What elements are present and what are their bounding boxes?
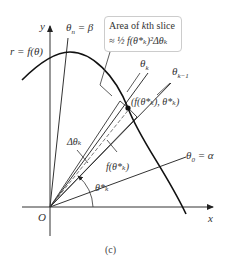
theta-k-label: θk — [140, 58, 149, 69]
delta-theta-label: Δθₖ — [67, 137, 81, 147]
x-axis-label: x — [208, 213, 213, 224]
theta-k-leader — [127, 73, 140, 92]
ray-theta-n — [50, 38, 68, 207]
point-label: (f(θ*ₖ), θ*ₖ) — [131, 97, 179, 107]
origin-label: O — [38, 212, 46, 223]
figure-caption: (c) — [105, 244, 116, 255]
callout-leader-2 — [100, 85, 112, 96]
callout-line-2: ≈ ½ f(θ*ₖ)²Δθₖ — [109, 35, 167, 46]
callout-line-1: Area of kth slice — [109, 20, 175, 31]
y-axis-label: y — [40, 21, 45, 32]
angle-label: θ*ₖ — [95, 183, 109, 193]
area-callout-box: Area of kth slice ≈ ½ f(θ*ₖ)²Δθₖ — [104, 16, 182, 52]
theta-0-label: θ0 = α — [186, 150, 214, 161]
theta-n-label: θn = β — [66, 22, 93, 33]
curve-label: r = f(θ) — [10, 46, 43, 57]
radius-label: f(θ*ₖ) — [106, 162, 129, 172]
point-f-theta-k-star — [125, 105, 130, 110]
theta-k-minus-1-leader — [157, 83, 170, 95]
theta-k-minus-1-label: θk−1 — [172, 66, 189, 77]
callout-leader — [100, 52, 110, 85]
